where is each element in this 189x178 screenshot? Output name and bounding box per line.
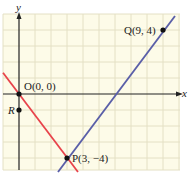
coordinate-plane: y x O(0, 0) R P(3, −4) Q(9, 4) [0,0,189,178]
label-q: Q(9, 4) [124,24,156,37]
grid-background [3,14,180,170]
point-q [160,27,165,32]
label-p: P(3, −4) [72,152,108,165]
x-axis-label: x [181,87,187,99]
point-p [64,155,69,160]
point-o [16,91,21,96]
label-r: R [7,104,15,116]
label-o: O(0, 0) [24,80,56,93]
point-r [16,107,21,112]
y-axis-label: y [15,1,21,13]
